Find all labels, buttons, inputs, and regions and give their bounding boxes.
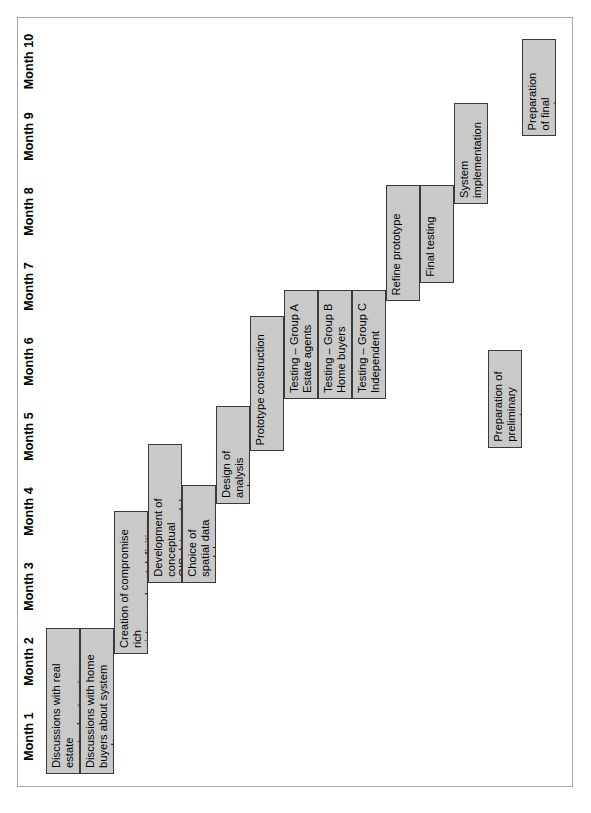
page-frame: Month 1Month 2Month 3Month 4Month 5Month… <box>17 17 573 787</box>
gantt-bar: Choice of spatial data model <box>182 485 216 583</box>
month-label-5: Month 5 <box>18 399 40 474</box>
month-label-7: Month 7 <box>18 249 40 324</box>
month-label-1: Month 1 <box>18 699 40 774</box>
gantt-bar: Testing – Group B Home buyers <box>318 290 352 399</box>
gantt-bar: Preparation of preliminary report <box>488 350 522 448</box>
gantt-bar: Prototype construction <box>250 317 284 452</box>
month-label-9: Month 9 <box>18 99 40 174</box>
gantt-bar: System implementation <box>454 103 488 204</box>
gantt-bar: Refine prototype <box>386 185 420 301</box>
month-label-4: Month 4 <box>18 474 40 549</box>
gantt-bar: Development of conceptual GIS data model <box>148 444 182 583</box>
gantt-bar: Creation of compromise rich picture and … <box>114 512 148 655</box>
gantt-bar: Testing – Group A Estate agents <box>284 290 318 399</box>
gantt-rotation-wrapper: Month 1Month 2Month 3Month 4Month 5Month… <box>18 18 572 786</box>
gantt-bar: Discussions with real estate agents abou… <box>46 628 80 774</box>
month-label-6: Month 6 <box>18 324 40 399</box>
gantt-bar: Preparation of final report <box>522 39 556 137</box>
gantt-bar: Discussions with home buyers about syste… <box>80 628 114 774</box>
month-label-2: Month 2 <box>18 624 40 699</box>
month-label-10: Month 10 <box>18 24 40 99</box>
gantt-chart: Month 1Month 2Month 3Month 4Month 5Month… <box>18 18 572 786</box>
gantt-bar: Design of analysis scheme <box>216 407 250 505</box>
gantt-bar: Final testing <box>420 185 454 283</box>
month-label-8: Month 8 <box>18 174 40 249</box>
month-label-3: Month 3 <box>18 549 40 624</box>
gantt-bar: Testing – Group C Independent <box>352 290 386 399</box>
